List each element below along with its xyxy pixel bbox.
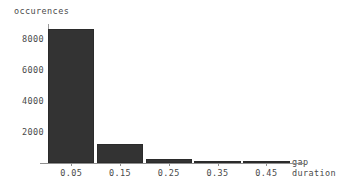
x-axis-title: gap duration: [292, 157, 336, 178]
y-tick-label: 6000: [22, 65, 44, 75]
plot-area: [48, 24, 292, 163]
x-tick-mark: [71, 163, 72, 166]
bar: [97, 144, 143, 163]
y-axis-title: occurences: [14, 6, 69, 16]
y-tick-label: 8000: [22, 34, 44, 44]
y-tick-label-wrap: 8000: [8, 34, 44, 44]
y-tick-label: 4000: [22, 96, 44, 106]
y-tick-label-wrap: 2000: [8, 127, 44, 137]
bar: [146, 159, 192, 163]
x-axis-line: [40, 163, 305, 164]
y-tick-label: 2000: [22, 127, 44, 137]
x-tick-mark: [266, 163, 267, 166]
y-tick-label-wrap: 6000: [8, 65, 44, 75]
bars-group: [48, 24, 292, 163]
x-tick-mark: [169, 163, 170, 166]
x-tick-mark: [120, 163, 121, 166]
x-tick-label: 0.15: [109, 168, 131, 178]
x-tick-mark: [218, 163, 219, 166]
histogram-chart: occurences gap duration 2000400060008000…: [0, 0, 348, 192]
x-tick-label: 0.45: [255, 168, 277, 178]
x-axis-title-line-2: duration: [292, 168, 336, 179]
x-tick-label: 0.35: [207, 168, 229, 178]
x-tick-label: 0.05: [60, 168, 82, 178]
x-tick-label: 0.25: [158, 168, 180, 178]
bar: [48, 29, 94, 163]
bar: [243, 161, 289, 163]
bar: [194, 161, 240, 163]
y-tick-label-wrap: 4000: [8, 96, 44, 106]
